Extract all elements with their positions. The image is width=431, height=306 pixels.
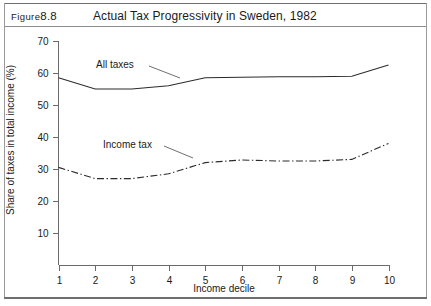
chart-plot-area: 10203040506070 Share of taxes in total i… bbox=[0, 0, 431, 306]
y-axis-tick-labels: 10203040506070 bbox=[37, 36, 49, 239]
y-axis-title: Share of taxes in total income (%) bbox=[5, 65, 16, 215]
y-tick-label: 40 bbox=[37, 132, 49, 143]
chart-svg: 10203040506070 Share of taxes in total i… bbox=[0, 0, 431, 306]
x-tick-label: 9 bbox=[350, 275, 356, 286]
income-tax-leader-line bbox=[164, 146, 193, 158]
chart-series-group bbox=[59, 65, 389, 179]
x-tick-label: 8 bbox=[313, 275, 319, 286]
x-tick-label: 4 bbox=[167, 275, 173, 286]
figure-container: Figure8.8 Actual Tax Progressivity in Sw… bbox=[0, 0, 431, 306]
x-axis-title: Income decile bbox=[193, 283, 255, 294]
y-axis: 10203040506070 Share of taxes in total i… bbox=[5, 36, 59, 265]
x-tick-label: 3 bbox=[130, 275, 136, 286]
all-taxes-leader-line bbox=[149, 66, 180, 78]
x-tick-label: 2 bbox=[93, 275, 99, 286]
y-tick-label: 60 bbox=[37, 68, 49, 79]
x-tick-label: 1 bbox=[57, 275, 63, 286]
y-tick-label: 50 bbox=[37, 100, 49, 111]
y-axis-ticks bbox=[53, 42, 59, 234]
chart-annotations: All taxes Income tax bbox=[96, 59, 193, 158]
y-tick-label: 30 bbox=[37, 164, 49, 175]
x-axis: 12345678910 Income decile bbox=[57, 265, 396, 294]
series-label-all-taxes: All taxes bbox=[96, 59, 134, 70]
y-tick-label: 70 bbox=[37, 36, 49, 47]
x-tick-label: 7 bbox=[277, 275, 283, 286]
x-tick-label: 10 bbox=[384, 275, 396, 286]
y-tick-label: 10 bbox=[37, 228, 49, 239]
y-tick-label: 20 bbox=[37, 196, 49, 207]
series-label-income-tax: Income tax bbox=[103, 139, 152, 150]
